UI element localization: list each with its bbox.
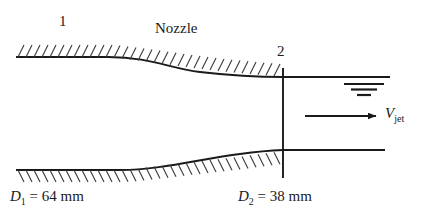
section-2-label: 2 <box>277 44 285 59</box>
velocity-symbol: V <box>385 105 394 121</box>
upper-wall <box>16 45 283 77</box>
nozzle-label: Nozzle <box>155 21 197 36</box>
upper-wall-line <box>16 57 283 77</box>
inlet-diameter-label: D1 = 64 mm <box>10 189 84 207</box>
outlet-diameter-label: D2 = 38 mm <box>238 189 312 207</box>
nozzle-diagram: 1 2 Nozzle D1 = 64 mm D2 = 38 mm Vjet <box>0 0 435 223</box>
lower-wall-line <box>16 150 283 170</box>
lower-wall <box>16 150 283 182</box>
velocity-subscript: jet <box>394 113 404 124</box>
lower-wall-hatching <box>18 152 280 182</box>
d1-symbol: D <box>10 188 21 204</box>
d1-subscript: 1 <box>21 196 26 207</box>
d2-value: = 38 mm <box>258 188 312 204</box>
jet-velocity-label: Vjet <box>385 106 404 124</box>
d1-value: = 64 mm <box>30 188 84 204</box>
section-1-label: 1 <box>59 14 67 29</box>
d2-symbol: D <box>238 188 249 204</box>
free-surface-icon <box>344 84 384 95</box>
d2-subscript: 2 <box>249 196 254 207</box>
